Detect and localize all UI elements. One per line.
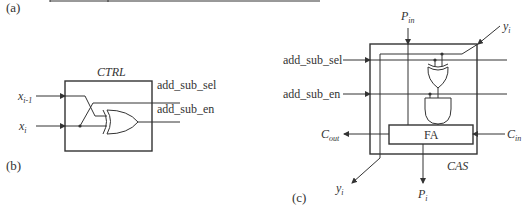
output-add-sub-sel: add_sub_sel — [157, 78, 217, 92]
cas-title: CAS — [447, 159, 468, 173]
circuit-diagram: (a) (b) (c) CTRL xi-1 xi add_sub_sel add… — [0, 0, 527, 207]
panel-label-a: (a) — [6, 0, 20, 15]
cas-block: CAS Pin yi yi add_sub_sel add_sub_en — [283, 9, 521, 203]
output-y-i: yi — [335, 181, 344, 197]
output-p-i: Pi — [417, 187, 428, 203]
and-gate-cas — [425, 98, 451, 124]
ctrl-block: CTRL xi-1 xi add_sub_sel add_sub_en — [17, 65, 217, 151]
table-remnant — [50, 0, 320, 2]
panel-label-b: (b) — [6, 158, 21, 173]
input-x-i-minus-1: xi-1 — [17, 89, 32, 105]
output-add-sub-en: add_sub_en — [157, 102, 214, 116]
panel-label-c: (c) — [292, 190, 306, 205]
xor-gate-ctrl — [103, 110, 138, 134]
fa-block: FA — [389, 125, 473, 144]
input-add-sub-en: add_sub_en — [283, 87, 340, 101]
input-y-i: yi — [502, 19, 511, 35]
fa-label: FA — [424, 128, 439, 142]
input-x-i: xi — [18, 119, 27, 135]
output-c-out: Cout — [321, 127, 340, 143]
ctrl-title: CTRL — [97, 65, 126, 79]
xor-gate-cas — [428, 64, 448, 88]
input-p-in: Pin — [400, 9, 415, 25]
input-c-in: Cin — [507, 127, 521, 143]
input-add-sub-sel: add_sub_sel — [283, 53, 343, 67]
